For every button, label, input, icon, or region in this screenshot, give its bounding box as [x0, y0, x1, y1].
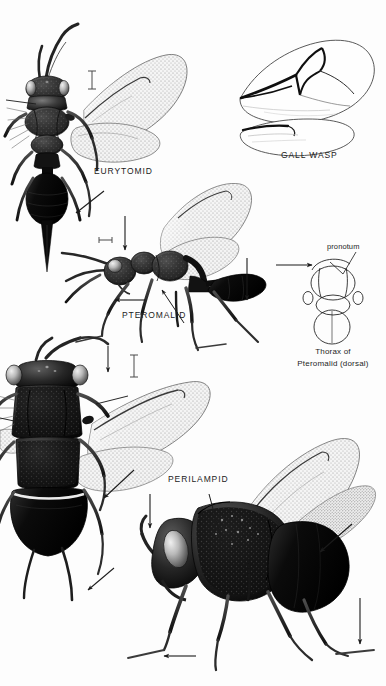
caption-thorax-line-1: Thorax of [283, 346, 383, 358]
callout-label-pronotum: pronotum [327, 242, 360, 251]
caption-thorax-line-2: Pteromalid (dorsal) [283, 358, 383, 370]
figure-label-perilampid: PERILAMPID [168, 474, 229, 484]
figure-label-gall-wasp: GALL WASP [281, 150, 338, 160]
illustration-plate: EURYTOMID GALL WASP PTEROMALID PERILAMPI… [0, 0, 386, 686]
plate-canvas [0, 0, 386, 686]
figure-label-eurytomid: EURYTOMID [94, 166, 153, 176]
caption-thorax-of-pteromalid: Thorax of Pteromalid (dorsal) [283, 346, 383, 369]
figure-label-pteromalid: PTEROMALID [122, 310, 186, 320]
